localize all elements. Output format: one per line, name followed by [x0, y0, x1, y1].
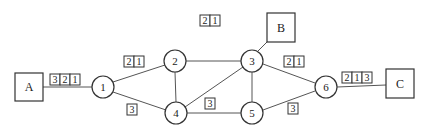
packet-number: 3 [208, 98, 213, 109]
packet-number: 3 [365, 72, 370, 83]
packets-A-1: 321 [50, 74, 80, 85]
router-label: 4 [173, 107, 179, 119]
packet-number: 1 [297, 56, 302, 67]
packet-number: 1 [213, 15, 218, 26]
router-4: 4 [165, 102, 187, 124]
packet-number: 2 [345, 72, 350, 83]
router-1: 1 [92, 76, 114, 98]
router-6: 6 [315, 76, 337, 98]
packets-3-6: 21 [284, 56, 304, 67]
packet-number: 1 [355, 72, 360, 83]
router-label: 1 [100, 81, 106, 93]
host-label: C [396, 77, 404, 91]
host-label: B [277, 21, 285, 35]
packets-4-5: 3 [205, 98, 215, 109]
packet-number: 2 [127, 56, 132, 67]
packet-number: 2 [287, 56, 292, 67]
network-diagram: ABC 123456 321213213213213 [0, 0, 426, 134]
packet-number: 3 [53, 74, 58, 85]
packet-number: 2 [63, 74, 68, 85]
packets-5-6: 3 [288, 103, 298, 114]
router-3: 3 [241, 50, 263, 72]
router-label: 5 [249, 107, 255, 119]
packet-number: 3 [130, 104, 135, 115]
router-label: 2 [172, 55, 178, 67]
host-A: A [15, 73, 43, 101]
packets-1-2: 21 [124, 56, 144, 67]
router-label: 3 [249, 55, 255, 67]
link-2-4 [175, 72, 176, 102]
link-6-C [337, 85, 386, 87]
link-3-B [258, 42, 267, 51]
host-B: B [267, 13, 295, 42]
router-label: 6 [323, 81, 329, 93]
packets-1-4: 3 [127, 104, 137, 115]
packet-queues: 321213213213213 [50, 15, 372, 115]
packet-number: 3 [291, 103, 296, 114]
packet-number: 1 [73, 74, 78, 85]
router-5: 5 [241, 102, 263, 124]
packet-number: 1 [137, 56, 142, 67]
router-2: 2 [164, 50, 186, 72]
link-1-4 [113, 92, 166, 110]
host-label: A [25, 80, 34, 94]
packet-number: 2 [203, 15, 208, 26]
packets-2-3: 21 [200, 15, 220, 26]
link-1-2 [113, 65, 165, 82]
packets-6-C: 213 [342, 72, 372, 83]
host-C: C [386, 69, 414, 98]
